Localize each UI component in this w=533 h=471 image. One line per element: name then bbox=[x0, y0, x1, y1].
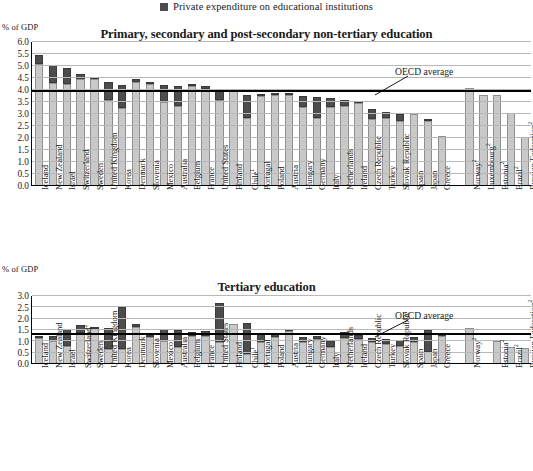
x-axis-category-label: United States bbox=[221, 145, 230, 190]
y-axis-tick-label: 0.5 bbox=[17, 349, 29, 358]
gridline bbox=[32, 161, 531, 162]
y-axis-tick-label: 4.5 bbox=[17, 74, 29, 83]
gridline bbox=[32, 77, 531, 78]
x-axis-category-label: New Zealand bbox=[55, 145, 64, 191]
y-axis-tick-label: 5.5 bbox=[17, 50, 29, 59]
y-axis-tick-label: 0.5 bbox=[17, 170, 29, 179]
x-axis-category-label: Austria bbox=[291, 165, 300, 190]
x-axis-category-label: Belgium bbox=[193, 339, 202, 368]
legend-private-label: Private expenditure on educational insti… bbox=[173, 1, 373, 12]
x-axis-category-label: Portugal bbox=[263, 161, 272, 190]
gridline bbox=[32, 306, 531, 307]
y-axis-tick-label: 2.5 bbox=[17, 303, 29, 312]
oecd-average-line-1 bbox=[32, 90, 531, 92]
y-axis-tick-label: 1.0 bbox=[17, 158, 29, 167]
x-axis-category-label: Italy bbox=[332, 175, 341, 191]
x-axis-category-label: Israel bbox=[68, 349, 77, 368]
x-axis-category-label: Belgium bbox=[193, 161, 202, 190]
x-axis-category-label: Slovenia bbox=[152, 338, 161, 368]
x-axis-category-label: Slovenia bbox=[152, 160, 161, 190]
x-axis-category-label: Norway2 bbox=[471, 338, 481, 368]
gridline bbox=[32, 295, 531, 296]
bar-segment-private bbox=[35, 55, 43, 63]
x-axis-category-label: Mexico bbox=[166, 342, 175, 368]
x-axis-category-label: Spain bbox=[416, 349, 425, 368]
x-axis-category-label: Iceland bbox=[41, 165, 50, 190]
x-axis-category-label: Chile1 bbox=[249, 169, 259, 190]
y-axis-tick-label: 1.5 bbox=[17, 326, 29, 335]
x-axis-category-label: Turkey bbox=[388, 166, 397, 190]
bar-segment-private bbox=[285, 93, 293, 95]
bar-segment-private bbox=[35, 336, 43, 338]
x-axis-category-label: New Zealand bbox=[55, 323, 64, 369]
x-axis-category-label: Israel bbox=[68, 171, 77, 190]
y-axis-unit-label-2: % of GDP bbox=[2, 264, 38, 274]
x-axis-category-label: Japan bbox=[430, 171, 439, 190]
y-axis-tick-label: 2.5 bbox=[17, 122, 29, 131]
x-axis-category-label: Australia bbox=[180, 337, 189, 368]
x-axis-category-label: Estonia2 bbox=[499, 340, 509, 368]
x-axis-category-label: Brazil2 bbox=[513, 344, 523, 368]
x-axis-category-label: Netherlands bbox=[346, 149, 355, 190]
bar-segment-private bbox=[132, 79, 140, 81]
x-axis-category-label: Turkey bbox=[388, 344, 397, 368]
gridline bbox=[32, 53, 531, 54]
x-axis-category-label: Spain bbox=[416, 171, 425, 190]
x-axis-category-label: Korea bbox=[124, 347, 133, 368]
x-axis-category-label: Russian Federation2 bbox=[527, 122, 533, 190]
x-axis-category-label: Brazil2 bbox=[513, 166, 523, 190]
x-axis-category-label: France bbox=[207, 345, 216, 368]
x-axis-category-label: Ireland bbox=[360, 344, 369, 368]
x-axis-category-label: Poland bbox=[277, 166, 286, 190]
x-axis-category-label: Denmark bbox=[138, 158, 147, 190]
x-axis-category-label: United Kingdom bbox=[110, 133, 119, 190]
gridline bbox=[32, 65, 531, 66]
x-axis-category-label: Hungary bbox=[305, 160, 314, 190]
x-axis-category-label: Sweden bbox=[96, 341, 105, 368]
bar-segment-private bbox=[49, 65, 57, 83]
x-axis-category-label: Australia bbox=[180, 159, 189, 190]
x-axis-category-label: Portugal bbox=[263, 339, 272, 368]
bar-segment-private bbox=[396, 114, 404, 121]
oecd-average-line-2 bbox=[32, 333, 531, 335]
y-axis-tick-label: 2.0 bbox=[17, 315, 29, 324]
bar-column bbox=[326, 42, 334, 186]
bar-series-1 bbox=[32, 42, 531, 186]
y-axis-tick-label: 0.0 bbox=[17, 360, 29, 369]
gridline bbox=[32, 113, 531, 114]
x-axis-category-label: Czech Republic bbox=[374, 136, 383, 190]
x-axis-category-label: Japan bbox=[430, 349, 439, 368]
bar-column bbox=[118, 42, 126, 186]
chart-tertiary: % of GDP Tertiary education 0.00.51.01.5… bbox=[0, 262, 533, 471]
x-axis-category-label: Italy bbox=[332, 353, 341, 369]
y-axis-tick-label: 2.0 bbox=[17, 134, 29, 143]
gridline bbox=[32, 101, 531, 102]
y-axis-tick-label: 1.0 bbox=[17, 337, 29, 346]
bar-column bbox=[354, 42, 362, 186]
bar-segment-private bbox=[271, 93, 279, 95]
legend-private-swatch bbox=[160, 3, 168, 11]
x-axis-category-label: France bbox=[207, 167, 216, 190]
gridline bbox=[32, 329, 531, 330]
x-axis-category-label: Austria bbox=[291, 343, 300, 368]
x-axis-category-label: Germany bbox=[318, 158, 327, 190]
x-axis-category-label: Slovak Republic bbox=[402, 134, 411, 190]
chart-title-1: Primary, secondary and post-secondary no… bbox=[0, 27, 533, 42]
x-axis-category-label: Hungary bbox=[305, 338, 314, 368]
bar-segment-private bbox=[326, 341, 334, 347]
x-axis-category-label: Germany bbox=[318, 336, 327, 368]
y-axis-tick-label: 0.0 bbox=[17, 182, 29, 191]
x-axis-category-label: Greece bbox=[443, 166, 452, 190]
chart-title-2: Tertiary education bbox=[0, 280, 533, 295]
oecd-average-leader-2 bbox=[372, 318, 412, 340]
bar-column bbox=[382, 42, 390, 186]
x-axis-category-label: Poland bbox=[277, 344, 286, 368]
figure-page: Private expenditure on educational insti… bbox=[0, 0, 533, 471]
x-axis-category-label: Finland bbox=[235, 164, 244, 190]
x-axis-category-label: United Kingdom bbox=[110, 311, 119, 368]
x-axis-category-label: Norway2 bbox=[471, 160, 481, 190]
y-axis-tick-label: 4.0 bbox=[17, 86, 29, 95]
oecd-average-leader-1 bbox=[372, 74, 412, 98]
bar-column bbox=[424, 42, 432, 186]
y-axis-tick-label: 3.0 bbox=[17, 110, 29, 119]
